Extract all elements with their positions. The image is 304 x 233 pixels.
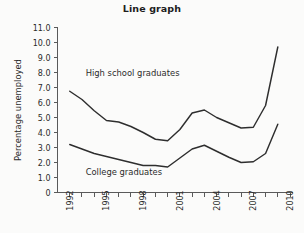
y-tick-label: 9.0 — [38, 54, 51, 63]
y-tick-label: 11.0 — [33, 24, 51, 33]
y-tick-label: 5.0 — [38, 114, 51, 123]
y-tick-label: 8.0 — [38, 69, 51, 78]
x-tick-label: 2010 — [286, 190, 295, 210]
x-tick-label: 1995 — [102, 190, 111, 210]
y-tick-label: 3.0 — [38, 144, 51, 153]
y-axis-tick-labels: 11.010.09.08.07.06.05.04.03.02.01.00 — [33, 24, 51, 198]
y-tick-label: 1.0 — [38, 174, 51, 183]
y-tick-label: 0 — [45, 189, 50, 198]
x-tick-label: 2001 — [176, 190, 185, 210]
y-tick-label: 10.0 — [33, 39, 51, 48]
y-axis-title: Percentage unemployed — [13, 59, 23, 161]
x-tick-label: 2007 — [249, 190, 258, 210]
x-axis-tick-labels: 1992199519982001200420072010 — [66, 190, 295, 210]
series-label: College graduates — [86, 167, 162, 177]
y-tick-label: 2.0 — [38, 159, 51, 168]
x-tick-label: 2004 — [213, 190, 222, 210]
chart-plot-area: 11.010.09.08.07.06.05.04.03.02.01.00 199… — [0, 0, 304, 233]
series-annotations: High school graduatesCollege graduates — [86, 68, 180, 176]
series-line-high-school-graduates — [70, 47, 278, 141]
x-tick-label: 1998 — [139, 190, 148, 210]
series-label: High school graduates — [86, 68, 180, 78]
y-tick-label: 6.0 — [38, 99, 51, 108]
data-series-group — [70, 47, 278, 167]
series-line-college-graduates — [70, 124, 278, 167]
y-tick-label: 7.0 — [38, 84, 51, 93]
y-axis-ticks — [54, 28, 58, 193]
line-graph-figure: Line graph 11.010.09.08.07.06.05.04.03.0… — [0, 0, 304, 233]
y-tick-label: 4.0 — [38, 129, 51, 138]
x-tick-label: 1992 — [66, 190, 75, 210]
